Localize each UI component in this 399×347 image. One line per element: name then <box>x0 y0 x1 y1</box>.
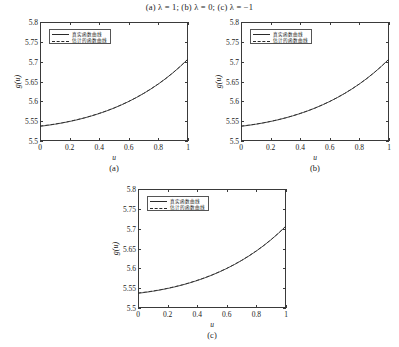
legend-line-solid-icon <box>253 34 270 35</box>
panel-c: 5.55.555.65.655.75.755.800.20.40.60.81ug… <box>100 181 296 347</box>
curve-dashed <box>40 59 188 126</box>
legend-line-solid-icon <box>150 201 167 202</box>
legend-entry-estimated: 估计的函数曲线 <box>52 38 108 45</box>
legend-line-dashed-icon <box>52 41 69 42</box>
figure-caption: (a) λ = 1; (b) λ = 0; (c) λ = −1 <box>0 2 399 12</box>
curve-dashed <box>138 226 286 293</box>
legend-line-dashed-icon <box>150 208 167 209</box>
curve-solid <box>241 59 389 126</box>
legend-entry-estimated: 估计的函数曲线 <box>150 205 206 212</box>
legend-box: 真实函数曲线估计的函数曲线 <box>49 29 111 44</box>
legend-label-estimated: 估计的函数曲线 <box>72 38 107 45</box>
legend-label-estimated: 估计的函数曲线 <box>273 38 308 45</box>
legend-line-dashed-icon <box>253 41 270 42</box>
legend-line-solid-icon <box>52 34 69 35</box>
curve-dashed <box>241 59 389 126</box>
legend-label-estimated: 估计的函数曲线 <box>170 205 205 212</box>
curve-solid <box>138 226 286 293</box>
panel-tag: (c) <box>207 330 216 340</box>
panel-tag: (b) <box>310 163 320 173</box>
panel-tag: (a) <box>109 163 118 173</box>
panel-a: 5.55.555.65.655.75.755.800.20.40.60.81ug… <box>2 14 195 179</box>
curve-solid <box>40 59 188 126</box>
legend-box: 真实函数曲线估计的函数曲线 <box>147 196 209 211</box>
panel-b: 5.55.555.65.655.75.755.800.20.40.60.81ug… <box>203 14 397 179</box>
legend-box: 真实函数曲线估计的函数曲线 <box>250 29 312 44</box>
legend-entry-estimated: 估计的函数曲线 <box>253 38 309 45</box>
